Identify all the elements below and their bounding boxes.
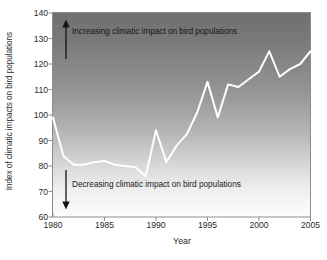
x-tick-label: 1985 xyxy=(85,220,125,230)
increasing-annotation-label: Increasing climatic impact on bird popul… xyxy=(72,26,237,36)
x-tick-label: 1990 xyxy=(136,220,176,230)
x-tick-label: 1980 xyxy=(33,220,73,230)
decreasing-annotation-label: Decreasing climatic impact on bird popul… xyxy=(72,179,241,189)
x-tick-label: 1995 xyxy=(188,220,228,230)
x-tick-label: 2000 xyxy=(239,220,279,230)
y-axis-ticks xyxy=(49,13,53,217)
x-axis-title: Year xyxy=(52,236,312,246)
x-tick-label: 2005 xyxy=(291,220,327,230)
climate-impact-line-chart: Index of climatic impacts on bird popula… xyxy=(0,0,327,260)
